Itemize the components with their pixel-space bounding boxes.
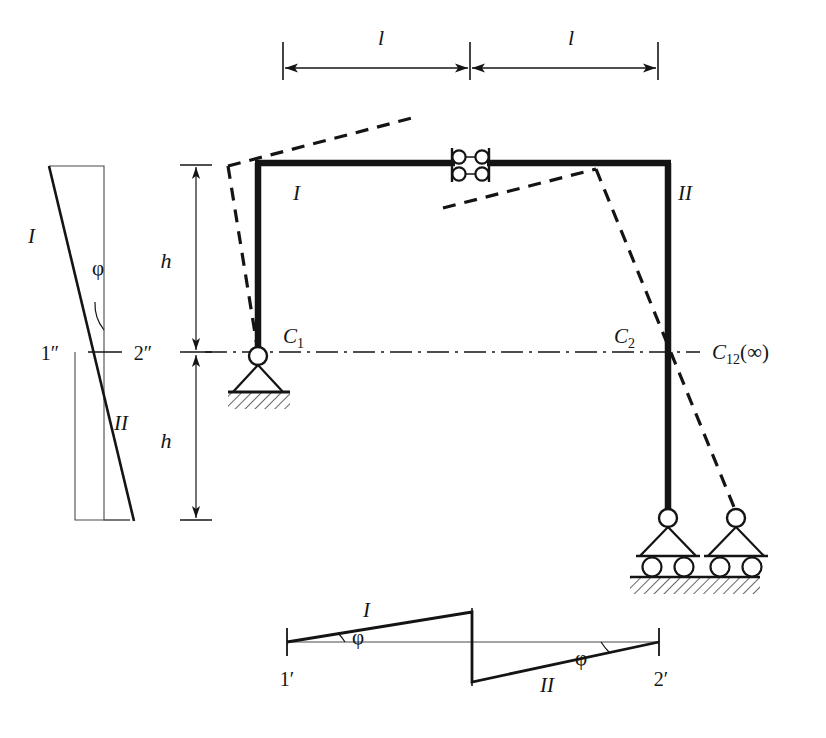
span-label-right: l [568, 25, 574, 50]
bottom-label-II: II [539, 673, 555, 697]
roller-wheel-left-original [643, 558, 662, 577]
roller-pin-circle-displaced [727, 509, 745, 527]
height-label-upper: h [161, 248, 172, 273]
joint-roller-top-right [475, 150, 488, 163]
node-label-1-prime: 1′ [280, 668, 294, 690]
node-label-2-double-prime: 2″ [134, 342, 152, 364]
node-label-2-prime: 2′ [654, 668, 668, 690]
frame-label-II: II [677, 181, 693, 205]
support-hatching-C1 [228, 392, 290, 409]
structural-diagram: l l h h I φ 1″ 2″ II [0, 0, 826, 738]
displaced-shape-right [443, 169, 736, 512]
joint-roller-bottom-left [452, 167, 465, 180]
joint-roller-top-left [452, 150, 465, 163]
left-diagram-label-I: I [27, 224, 36, 248]
node-label-1-double-prime: 1″ [41, 342, 59, 364]
roller-support-displaced [704, 509, 768, 577]
roller-triangle-displaced [708, 527, 764, 556]
vertical-dimension-group: h h [161, 165, 213, 520]
displaced-beam-left [228, 118, 412, 166]
figure-root: l l h h I φ 1″ 2″ II [0, 0, 826, 738]
support-label-C2: C2 [614, 324, 635, 351]
pin-support-C1: C1 [228, 324, 304, 409]
bottom-angle-label-right: φ [575, 646, 587, 670]
angle-arc-bottom-right [601, 642, 609, 652]
bottom-displacement-diagram: I φ φ 1′ 2′ II [280, 598, 668, 697]
roller-pin-circle-original [659, 509, 677, 527]
displacement-line-vertical-plot [49, 166, 134, 521]
height-label-lower: h [161, 428, 172, 453]
angle-arc-left-diagram [95, 302, 104, 330]
bottom-label-I: I [362, 598, 371, 622]
roller-wheel-right-displaced [743, 558, 762, 577]
bottom-angle-label-left: φ [352, 625, 364, 649]
support-pin-circle-C1 [249, 347, 267, 365]
bottom-plot-lower-II [472, 642, 659, 682]
left-diagram-outline-lower [75, 352, 130, 520]
joint-roller-bottom-right [475, 167, 488, 180]
bottom-plot-upper-I [287, 612, 472, 642]
displaced-column-left [228, 166, 258, 352]
top-dimension-group: l l [283, 25, 658, 80]
frame-label-I: I [292, 181, 301, 205]
axis-label-C12: C12(∞) [712, 340, 769, 367]
ground-hatching-original [630, 577, 760, 594]
roller-wheel-left-displaced [711, 558, 730, 577]
roller-wheel-right-original [675, 558, 694, 577]
support-triangle-C1 [233, 365, 283, 392]
parallel-motion-joint [452, 148, 489, 182]
left-diagram-label-II: II [113, 411, 129, 435]
support-label-C1: C1 [283, 324, 304, 351]
span-label-left: l [378, 25, 384, 50]
roller-triangle-original [640, 527, 696, 556]
left-diagram-angle-label: φ [92, 256, 104, 280]
left-displacement-diagram: I φ 1″ 2″ II [27, 166, 152, 521]
